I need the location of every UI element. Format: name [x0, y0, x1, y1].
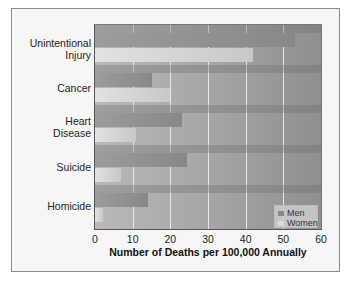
x-tick-label: 40 — [240, 233, 252, 245]
category-label-unintentional-injury: Unintentional Injury — [30, 37, 91, 61]
bar-women — [95, 48, 253, 62]
legend: Men Women — [274, 205, 318, 228]
bar-men — [95, 73, 152, 87]
x-tick-label: 30 — [202, 233, 214, 245]
category-label-homicide: Homicide — [47, 200, 91, 212]
category-label-line: Unintentional — [30, 37, 91, 49]
bar-men — [95, 153, 187, 167]
gridline — [283, 25, 284, 229]
category-band — [95, 105, 321, 113]
category-band — [95, 185, 321, 193]
legend-swatch-women — [278, 221, 284, 226]
legend-label-women: Women — [287, 218, 318, 228]
category-label-line: Suicide — [57, 161, 91, 173]
category-label-line: Cancer — [57, 82, 91, 94]
category-label-cancer: Cancer — [57, 82, 91, 94]
category-band — [95, 65, 321, 73]
x-tick-label: 50 — [277, 233, 289, 245]
category-label-line: Heart — [53, 115, 91, 127]
category-band — [95, 145, 321, 153]
bar-women — [95, 128, 136, 142]
x-tick-label: 20 — [164, 233, 176, 245]
bar-men — [95, 113, 182, 127]
legend-item-women: Women — [278, 218, 318, 228]
legend-swatch-men — [278, 211, 284, 216]
x-tick-label: 0 — [92, 233, 98, 245]
plot-area — [94, 24, 322, 230]
bar-women — [95, 208, 103, 222]
x-tick-label: 10 — [127, 233, 139, 245]
bar-women — [95, 168, 121, 182]
category-label-heart-disease: Heart Disease — [53, 115, 91, 139]
bar-men — [95, 33, 295, 47]
category-label-line: Injury — [30, 49, 91, 61]
bar-women — [95, 88, 170, 102]
category-label-line: Homicide — [47, 200, 91, 212]
category-label-line: Disease — [53, 127, 91, 139]
legend-item-men: Men — [278, 208, 305, 218]
category-band — [95, 25, 321, 33]
bar-men — [95, 193, 148, 207]
x-tick-label: 60 — [315, 233, 327, 245]
legend-label-men: Men — [287, 208, 305, 218]
category-label-suicide: Suicide — [57, 161, 91, 173]
x-axis-label: Number of Deaths per 100,000 Annually — [94, 246, 322, 258]
